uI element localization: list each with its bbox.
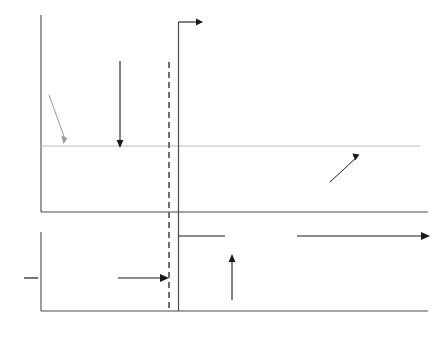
chart-canvas	[0, 0, 433, 343]
background	[0, 0, 433, 343]
chart-figure	[0, 0, 433, 343]
